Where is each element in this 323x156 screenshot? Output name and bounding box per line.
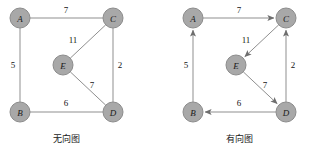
edge-weight-label: 7: [237, 5, 242, 15]
edge-labels-layer: 75112767511276: [11, 5, 296, 108]
graph-node[interactable]: D: [103, 102, 123, 122]
node-label: A: [189, 14, 196, 24]
graph-node[interactable]: C: [103, 8, 123, 28]
graph-node[interactable]: E: [226, 55, 246, 75]
edge-weight-label: 7: [64, 5, 69, 15]
edge-weight-label: 11: [69, 35, 78, 45]
edge-weight-label: 11: [242, 35, 251, 45]
edge-weight-label: 7: [90, 80, 95, 90]
captions-layer: 无向图有向图: [53, 133, 253, 144]
edge-weight-label: 5: [184, 60, 189, 70]
node-label: A: [16, 14, 23, 24]
node-label: C: [283, 14, 290, 24]
edge-weight-label: 6: [64, 98, 69, 108]
node-label: B: [17, 108, 23, 118]
node-label: E: [59, 61, 66, 71]
edge-weight-label: 6: [237, 98, 242, 108]
graph-node[interactable]: A: [183, 8, 203, 28]
graph-node[interactable]: D: [276, 102, 296, 122]
edge-weight-label: 2: [291, 60, 296, 70]
graph-node[interactable]: A: [10, 8, 30, 28]
graph-figure: ACEBDACEBD 75112767511276 无向图有向图: [0, 0, 323, 156]
edge-weight-label: 7: [263, 80, 268, 90]
node-label: D: [282, 108, 290, 118]
graph-node[interactable]: B: [183, 102, 203, 122]
node-label: B: [190, 108, 196, 118]
graph-canvas: ACEBDACEBD 75112767511276 无向图有向图: [0, 0, 323, 156]
graph-node[interactable]: E: [53, 55, 73, 75]
node-label: E: [232, 61, 239, 71]
graph-edge: [70, 72, 105, 105]
graph-node[interactable]: C: [276, 8, 296, 28]
graph-node[interactable]: B: [10, 102, 30, 122]
edge-weight-label: 5: [11, 60, 16, 70]
graph-caption: 有向图: [226, 133, 253, 144]
graph-caption: 无向图: [53, 133, 80, 144]
graph-edge: [243, 72, 277, 104]
node-label: C: [110, 14, 117, 24]
nodes-layer: ACEBDACEBD: [10, 8, 296, 122]
edge-weight-label: 2: [118, 60, 123, 70]
node-label: D: [109, 108, 117, 118]
